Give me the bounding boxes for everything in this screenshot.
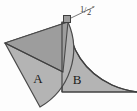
dimension-callout: 1 / 2 ” bbox=[80, 4, 95, 17]
geometry-figure: 1 / 2 ” A B bbox=[0, 0, 137, 111]
dimension-value-denominator: 2 bbox=[87, 7, 91, 17]
dimension-unit-symbol: ” bbox=[92, 5, 95, 11]
region-b-label: B bbox=[73, 72, 82, 87]
region-a-label: A bbox=[33, 71, 43, 86]
figure-canvas: 1 / 2 ” A B bbox=[0, 0, 137, 111]
right-angle-marker-icon bbox=[64, 16, 71, 23]
